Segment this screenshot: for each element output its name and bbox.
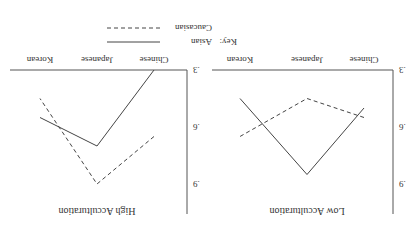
legend-label-caucasian: Caucasian bbox=[175, 23, 212, 33]
figure-canvas: Low Acculturation.3.6.9ChineseJapaneseKo… bbox=[0, 0, 417, 228]
high-chart-title: High Acculturation bbox=[59, 206, 136, 217]
low-series-caucasian bbox=[240, 99, 364, 137]
y-tick-label: .3 bbox=[193, 65, 200, 75]
figure-rotated: Low Acculturation.3.6.9ChineseJapaneseKo… bbox=[0, 0, 417, 228]
legend: Key:AsianCaucasian bbox=[107, 23, 237, 47]
high-series-asian bbox=[40, 70, 154, 146]
legend-label-asian: Asian bbox=[191, 37, 212, 47]
x-category-label: Japanese bbox=[291, 55, 323, 65]
high-series-caucasian bbox=[40, 99, 154, 185]
y-tick-label: .6 bbox=[193, 122, 200, 132]
panel-low: Low Acculturation.3.6.9ChineseJapaneseKo… bbox=[212, 55, 406, 217]
y-tick-label: .6 bbox=[399, 122, 406, 132]
low-series-asian bbox=[240, 99, 364, 175]
x-category-label: Chinese bbox=[349, 55, 378, 65]
x-category-label: Korean bbox=[226, 55, 253, 65]
legend-key-label: Key: bbox=[220, 37, 238, 47]
panel-high: High Acculturation.3.6.9ChineseJapaneseK… bbox=[10, 55, 200, 217]
low-chart-title: Low Acculturation bbox=[269, 206, 344, 217]
x-category-label: Japanese bbox=[81, 55, 113, 65]
x-category-label: Chinese bbox=[139, 55, 168, 65]
y-tick-label: .9 bbox=[399, 179, 406, 189]
y-tick-label: .9 bbox=[193, 179, 200, 189]
x-category-label: Korean bbox=[26, 55, 53, 65]
y-tick-label: .3 bbox=[399, 65, 406, 75]
